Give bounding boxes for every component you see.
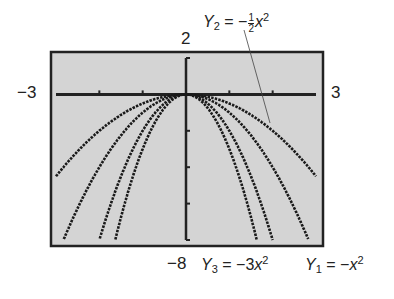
ymin-label: −8 <box>167 255 186 272</box>
y3-equation-label: Y3 = −3x2 <box>201 255 268 275</box>
y2-equation-label: Y2 = −12x2 <box>203 12 269 34</box>
ymax-label: 2 <box>181 30 190 47</box>
xmin-label: −3 <box>17 84 36 101</box>
fraction-half: 12 <box>248 13 254 34</box>
y1-equation-label: Y1 = −x2 <box>305 255 364 275</box>
xmax-label: 3 <box>331 84 340 101</box>
y2-name: Y <box>203 13 214 30</box>
